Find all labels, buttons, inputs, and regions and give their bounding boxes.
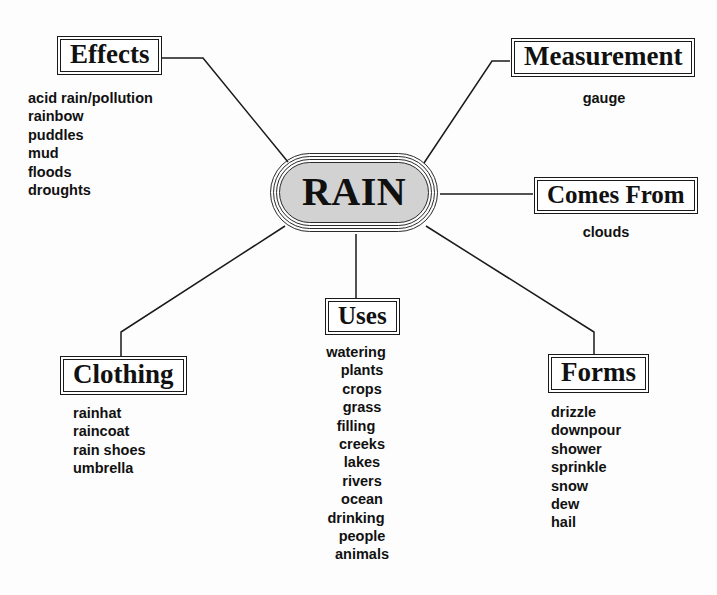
list-item: shower bbox=[551, 440, 621, 458]
list-item: acid rain/pollution bbox=[28, 89, 153, 107]
connector-forms bbox=[426, 226, 594, 355]
center-node-rain[interactable]: RAIN bbox=[270, 153, 438, 232]
list-item: plants bbox=[296, 361, 416, 379]
category-box-forms[interactable]: Forms bbox=[548, 354, 649, 393]
list-item: filling bbox=[296, 417, 416, 435]
category-label-measurement: Measurement bbox=[514, 41, 692, 74]
list-item: umbrella bbox=[73, 459, 146, 477]
category-label-effects: Effects bbox=[60, 39, 159, 72]
list-item: snow bbox=[551, 477, 621, 495]
list-item: watering bbox=[296, 343, 416, 361]
item-list-uses: watering plants crops grass filling cree… bbox=[296, 343, 416, 564]
item-list-effects: acid rain/pollution rainbow puddles mud … bbox=[28, 89, 153, 199]
list-item: downpour bbox=[551, 421, 621, 439]
category-label-comes-from: Comes From bbox=[537, 180, 695, 211]
list-item: people bbox=[296, 527, 416, 545]
center-node-label: RAIN bbox=[270, 153, 438, 232]
item-list-comes-from: clouds bbox=[535, 223, 677, 241]
list-item: rain shoes bbox=[73, 441, 146, 459]
category-box-effects[interactable]: Effects bbox=[57, 36, 162, 75]
category-box-comes-from[interactable]: Comes From bbox=[534, 177, 698, 214]
connector-effects bbox=[147, 58, 288, 162]
list-item: raincoat bbox=[73, 422, 146, 440]
list-item: floods bbox=[28, 163, 153, 181]
list-item: clouds bbox=[535, 223, 677, 241]
category-label-clothing: Clothing bbox=[63, 359, 184, 392]
list-item: lakes bbox=[296, 453, 416, 471]
list-item: sprinkle bbox=[551, 458, 621, 476]
list-item: ocean bbox=[296, 490, 416, 508]
list-item: gauge bbox=[530, 89, 678, 107]
mind-map-canvas: RAIN Effects acid rain/pollution rainbow… bbox=[0, 0, 717, 595]
category-label-forms: Forms bbox=[551, 357, 646, 390]
category-box-uses[interactable]: Uses bbox=[325, 298, 400, 335]
connector-clothing bbox=[121, 226, 285, 357]
list-item: dew bbox=[551, 495, 621, 513]
item-list-forms: drizzle downpour shower sprinkle snow de… bbox=[551, 403, 621, 532]
list-item: animals bbox=[296, 545, 416, 563]
category-box-measurement[interactable]: Measurement bbox=[511, 38, 695, 77]
list-item: droughts bbox=[28, 181, 153, 199]
category-box-clothing[interactable]: Clothing bbox=[60, 356, 187, 395]
list-item: crops bbox=[296, 380, 416, 398]
list-item: rainhat bbox=[73, 404, 146, 422]
list-item: rivers bbox=[296, 472, 416, 490]
list-item: drizzle bbox=[551, 403, 621, 421]
list-item: puddles bbox=[28, 126, 153, 144]
list-item: drinking bbox=[296, 509, 416, 527]
item-list-clothing: rainhat raincoat rain shoes umbrella bbox=[73, 404, 146, 478]
item-list-measurement: gauge bbox=[530, 89, 678, 107]
list-item: creeks bbox=[296, 435, 416, 453]
list-item: mud bbox=[28, 144, 153, 162]
list-item: grass bbox=[296, 398, 416, 416]
list-item: hail bbox=[551, 513, 621, 531]
connector-measurement bbox=[424, 61, 510, 163]
category-label-uses: Uses bbox=[328, 301, 397, 332]
list-item: rainbow bbox=[28, 107, 153, 125]
